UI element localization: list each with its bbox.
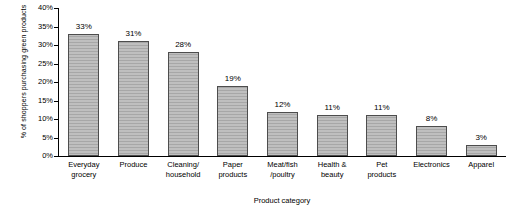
bar-value-label: 31%	[118, 29, 149, 38]
bar[interactable]	[416, 126, 447, 156]
x-axis-title: Product category	[58, 196, 506, 205]
y-tick-label: 15%	[22, 96, 58, 106]
y-tick-mark	[54, 101, 58, 102]
x-category-label-line: Pet	[357, 160, 407, 170]
x-category-label-line: Health &	[307, 160, 357, 170]
bar[interactable]	[366, 115, 397, 156]
bar-value-label: 3%	[466, 133, 497, 142]
bar-slot: 11%	[366, 8, 397, 156]
bar[interactable]	[267, 112, 298, 156]
x-category-label: Produce	[109, 160, 159, 170]
y-tick-mark	[54, 8, 58, 9]
x-category-label: Cleaning/household	[158, 160, 208, 179]
bar[interactable]	[68, 34, 99, 156]
x-category-label: Electronics	[407, 160, 457, 170]
bar-series: 33%31%28%19%12%11%11%8%3%	[59, 8, 506, 156]
bar-slot: 3%	[466, 8, 497, 156]
bar-slot: 8%	[416, 8, 447, 156]
x-category-label-line: beauty	[307, 170, 357, 180]
y-tick-label: 10%	[22, 114, 58, 124]
x-category-label-line: products	[357, 170, 407, 180]
bar[interactable]	[217, 86, 248, 156]
y-tick-label: 25%	[22, 59, 58, 69]
bar-value-label: 12%	[267, 100, 298, 109]
x-category-label: Meat/fish/poultry	[258, 160, 308, 179]
y-tick-mark	[54, 27, 58, 28]
bar-value-label: 11%	[317, 103, 348, 112]
y-tick-label: 20%	[22, 77, 58, 87]
y-tick-mark	[54, 138, 58, 139]
bar-value-label: 8%	[416, 114, 447, 123]
bar-value-label: 19%	[217, 74, 248, 83]
y-tick-label: 5%	[22, 133, 58, 143]
y-tick-mark	[54, 82, 58, 83]
x-axis-line	[58, 156, 506, 157]
x-category-label-line: grocery	[59, 170, 109, 180]
x-category-label-line: household	[158, 170, 208, 180]
y-tick-label: 35%	[22, 22, 58, 32]
x-category-label-line: Cleaning/	[158, 160, 208, 170]
plot-area: 0%5%10%15%20%25%30%35%40% 33%31%28%19%12…	[58, 8, 506, 156]
bar-slot: 28%	[168, 8, 199, 156]
bar-slot: 12%	[267, 8, 298, 156]
bar[interactable]	[118, 41, 149, 156]
x-category-label: Health &beauty	[307, 160, 357, 179]
x-category-label: Apparel	[456, 160, 506, 170]
bar[interactable]	[317, 115, 348, 156]
x-category-label-line: /poultry	[258, 170, 308, 180]
bar[interactable]	[168, 52, 199, 156]
bar-value-label: 33%	[68, 22, 99, 31]
x-category-label: Paperproducts	[208, 160, 258, 179]
y-tick-mark	[54, 45, 58, 46]
y-tick-mark	[54, 156, 58, 157]
bar-slot: 11%	[317, 8, 348, 156]
x-category-label-line: Apparel	[456, 160, 506, 170]
y-tick-mark	[54, 119, 58, 120]
bar-value-label: 11%	[366, 103, 397, 112]
x-category-label-line: Meat/fish	[258, 160, 308, 170]
bar[interactable]	[466, 145, 497, 156]
x-category-label: Everydaygrocery	[59, 160, 109, 179]
x-category-label: Petproducts	[357, 160, 407, 179]
x-category-label-line: Paper	[208, 160, 258, 170]
x-axis-category-labels: EverydaygroceryProduceCleaning/household…	[59, 160, 506, 190]
y-tick-label: 0%	[22, 151, 58, 161]
x-category-label-line: Produce	[109, 160, 159, 170]
x-category-label-line: Electronics	[407, 160, 457, 170]
y-tick-label: 30%	[22, 40, 58, 50]
bar-value-label: 28%	[168, 40, 199, 49]
bar-chart: % of shoppers purchasing green products …	[0, 0, 520, 214]
bar-slot: 31%	[118, 8, 149, 156]
x-category-label-line: products	[208, 170, 258, 180]
y-tick-mark	[54, 64, 58, 65]
bar-slot: 19%	[217, 8, 248, 156]
bar-slot: 33%	[68, 8, 99, 156]
y-tick-label: 40%	[22, 3, 58, 13]
x-category-label-line: Everyday	[59, 160, 109, 170]
